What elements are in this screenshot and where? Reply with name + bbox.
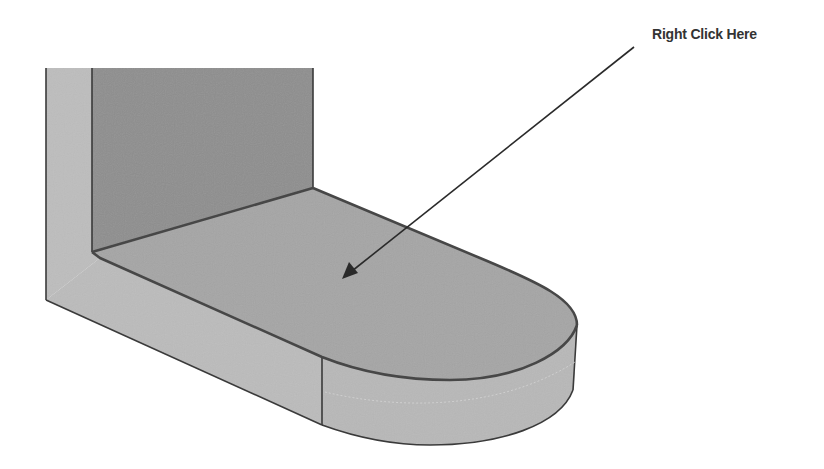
- callout-arrow: [342, 47, 634, 279]
- l-bracket-model: [0, 0, 824, 469]
- callout-label: Right Click Here: [652, 26, 757, 42]
- arrow-shaft: [352, 47, 634, 271]
